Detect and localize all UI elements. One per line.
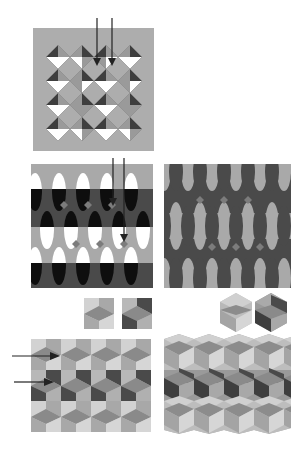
arrow-down-icon (108, 158, 130, 244)
square-cube-tile-dark (122, 298, 152, 329)
hexagon-cube-tile-dark (255, 293, 287, 333)
cube-tessellation-zigzag (164, 334, 291, 434)
hexagon-cube-tile-light (220, 293, 252, 333)
wavy-ellipse-pattern (164, 164, 291, 288)
arrow-right-icon (12, 351, 62, 389)
square-cube-tile-light (84, 298, 114, 329)
banded-ellipse-pattern (31, 164, 153, 288)
arrow-down-icon (92, 18, 118, 68)
